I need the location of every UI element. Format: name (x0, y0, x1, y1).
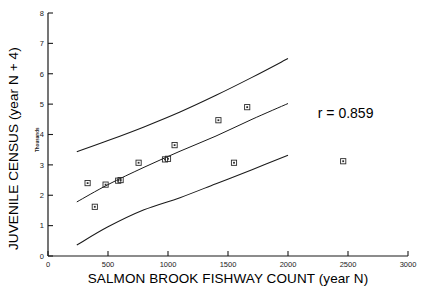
data-point-center (342, 160, 344, 162)
correlation-annotation: r = 0.859 (318, 105, 374, 121)
y-tick-label: 7 (40, 39, 44, 48)
y-tick-label: 4 (40, 130, 44, 139)
x-tick-label: 3000 (400, 260, 417, 269)
data-point-center (233, 162, 235, 164)
x-tick-label: 0 (46, 260, 50, 269)
scatter-plot-svg: 012345678 050010001500200025003000 JUVEN… (0, 0, 425, 304)
data-point-center (174, 144, 176, 146)
data-point-center (94, 206, 96, 208)
x-tick-label: 500 (102, 260, 115, 269)
chart-figure: 012345678 050010001500200025003000 JUVEN… (0, 0, 425, 304)
y-axis-unit-label: Thousands (35, 127, 40, 152)
data-point-center (87, 182, 89, 184)
y-tick-label: 0 (40, 252, 44, 261)
data-point-center (246, 106, 248, 108)
x-tick-label: 1000 (160, 260, 177, 269)
y-tick-label: 8 (40, 9, 44, 18)
data-point-center (138, 162, 140, 164)
y-tick-label: 3 (40, 161, 44, 170)
y-tick-label: 6 (40, 70, 44, 79)
y-tick-label: 2 (40, 191, 44, 200)
x-axis-title: SALMON BROOK FISHWAY COUNT (year N) (88, 271, 369, 286)
y-axis-title: JUVENILE CENSUS (year N + 4) (6, 47, 21, 250)
x-tick-label: 2000 (280, 260, 297, 269)
y-tick-label: 5 (40, 100, 44, 109)
data-point-center (167, 158, 169, 160)
x-tick-label: 1500 (220, 260, 237, 269)
data-point-center (120, 179, 122, 181)
y-tick-label: 1 (40, 221, 44, 230)
data-point-center (218, 119, 220, 121)
data-point-center (105, 184, 107, 186)
plot-background (0, 0, 425, 304)
x-tick-label: 2500 (340, 260, 357, 269)
